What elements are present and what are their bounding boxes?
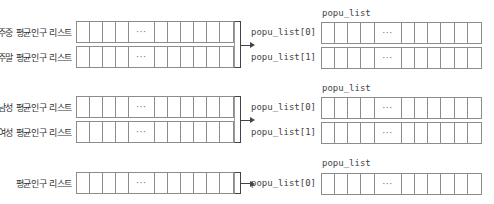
source-list-array: ··· (76, 46, 234, 68)
array-cell (335, 174, 348, 194)
array-cell (468, 98, 481, 118)
array-cell (402, 98, 415, 118)
array-cell (155, 97, 168, 117)
array-cell (77, 22, 90, 42)
target-index-label: popu_list[1] (251, 127, 316, 137)
arrow-line (241, 183, 250, 184)
array-cell (116, 22, 129, 42)
array-cell (468, 123, 481, 143)
target-index-label: popu_list[1] (251, 52, 316, 62)
array-cell (77, 173, 90, 193)
target-list-array: ··· (321, 173, 482, 195)
array-cell (428, 23, 441, 43)
source-list-label: 평균인구 리스트 (16, 177, 72, 190)
array-cell (322, 98, 335, 118)
array-cell (348, 98, 361, 118)
array-cell (77, 47, 90, 67)
array-cell (116, 122, 129, 142)
array-cell (348, 123, 361, 143)
source-list-label: 여성 평균인구 리스트 (0, 126, 72, 139)
array-cell (155, 122, 168, 142)
array-cell (441, 48, 454, 68)
array-cell (441, 23, 454, 43)
array-cell (402, 23, 415, 43)
ellipsis-cell: ··· (129, 22, 156, 42)
source-list-array: ··· (76, 96, 234, 118)
array-cell (194, 173, 207, 193)
array-cell (335, 98, 348, 118)
target-list-array: ··· (321, 97, 482, 119)
array-cell (361, 174, 374, 194)
array-cell (402, 123, 415, 143)
array-cell (103, 47, 116, 67)
target-index-label: popu_list[0] (251, 102, 316, 112)
array-cell (441, 123, 454, 143)
group-bracket (234, 96, 241, 143)
array-cell (90, 47, 103, 67)
array-cell (194, 97, 207, 117)
array-cell (468, 23, 481, 43)
array-cell (322, 48, 335, 68)
ellipsis-cell: ··· (375, 98, 402, 118)
target-list-array: ··· (321, 122, 482, 144)
array-cell (335, 48, 348, 68)
array-cell (168, 173, 181, 193)
array-cell (361, 48, 374, 68)
array-cell (348, 48, 361, 68)
array-cell (220, 173, 233, 193)
group-bracket (234, 21, 241, 68)
array-cell (335, 123, 348, 143)
array-cell (207, 122, 220, 142)
array-cell (361, 98, 374, 118)
source-list-label: 주말 평균인구 리스트 (0, 51, 72, 64)
target-list-array: ··· (321, 22, 482, 44)
target-list-title: popu_list (322, 83, 371, 93)
array-cell (155, 22, 168, 42)
arrow-line (241, 45, 250, 46)
array-cell (361, 123, 374, 143)
array-cell (455, 174, 468, 194)
source-list-array: ··· (76, 21, 234, 43)
ellipsis-cell: ··· (375, 123, 402, 143)
array-cell (116, 173, 129, 193)
array-cell (322, 123, 335, 143)
array-cell (103, 173, 116, 193)
array-cell (168, 122, 181, 142)
group-bracket (234, 172, 241, 194)
array-cell (220, 22, 233, 42)
array-cell (181, 122, 194, 142)
ellipsis-cell: ··· (129, 122, 156, 142)
array-cell (428, 98, 441, 118)
array-cell (441, 98, 454, 118)
array-cell (220, 47, 233, 67)
array-cell (181, 22, 194, 42)
array-cell (335, 23, 348, 43)
array-cell (103, 97, 116, 117)
array-cell (90, 173, 103, 193)
array-cell (415, 23, 428, 43)
array-cell (322, 23, 335, 43)
ellipsis-cell: ··· (129, 97, 156, 117)
array-cell (116, 97, 129, 117)
source-list-array: ··· (76, 121, 234, 143)
array-cell (415, 174, 428, 194)
array-cell (207, 173, 220, 193)
arrow-right-icon (250, 117, 255, 123)
array-cell (90, 22, 103, 42)
array-cell (361, 23, 374, 43)
array-cell (455, 98, 468, 118)
array-cell (207, 47, 220, 67)
source-list-label: 남성 평균인구 리스트 (0, 101, 72, 114)
array-cell (455, 123, 468, 143)
array-cell (103, 122, 116, 142)
array-cell (441, 174, 454, 194)
array-cell (402, 174, 415, 194)
ellipsis-cell: ··· (129, 173, 156, 193)
array-cell (103, 22, 116, 42)
target-index-label: popu_list[0] (251, 27, 316, 37)
array-cell (194, 22, 207, 42)
arrow-line (241, 120, 250, 121)
array-cell (428, 174, 441, 194)
array-cell (77, 122, 90, 142)
source-list-array: ··· (76, 172, 234, 194)
